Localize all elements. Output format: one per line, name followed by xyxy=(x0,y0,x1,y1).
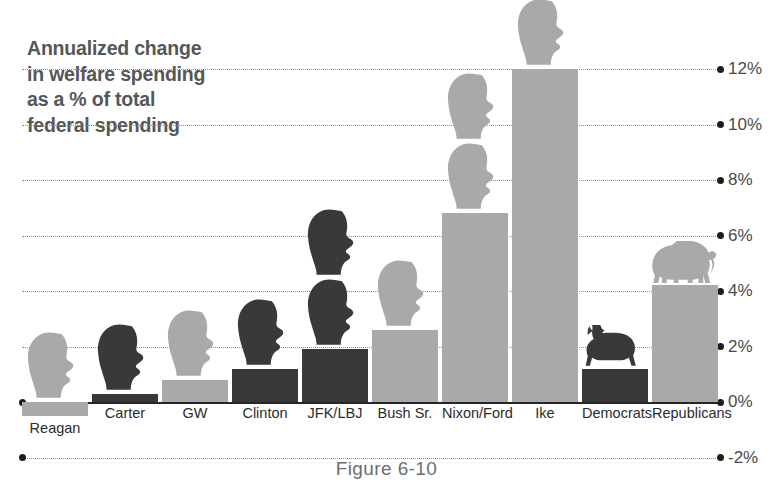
bar-column: Bush Sr. xyxy=(372,0,438,477)
bar-bush-sr-[interactable] xyxy=(372,330,438,402)
x-axis-label-bush-sr-: Bush Sr. xyxy=(372,405,438,421)
bar-nixon-ford[interactable] xyxy=(442,213,508,402)
x-axis-label-reagan: Reagan xyxy=(22,420,88,436)
bar-clinton[interactable] xyxy=(232,369,298,402)
bar-column: Democrats xyxy=(582,0,648,477)
bar-column: Reagan xyxy=(22,0,88,477)
x-axis-label-republicans: Republicans xyxy=(652,405,718,421)
figure-caption: Figure 6-10 xyxy=(0,458,773,480)
bar-jfk-lbj[interactable] xyxy=(302,349,368,402)
bar-gw[interactable] xyxy=(162,380,228,402)
x-axis-label-democrats: Democrats xyxy=(582,405,648,421)
bar-column: JFK/LBJ xyxy=(302,0,368,477)
head-silhouette-icon xyxy=(26,332,84,400)
bar-reagan[interactable] xyxy=(22,402,88,416)
x-axis-label-nixon-ford: Nixon/Ford xyxy=(442,405,508,421)
x-axis-label-jfk-lbj: JFK/LBJ xyxy=(302,405,368,421)
bar-ike[interactable] xyxy=(512,69,578,402)
bar-column: Nixon/Ford xyxy=(442,0,508,477)
bar-column: GW xyxy=(162,0,228,477)
head-silhouette-icon xyxy=(516,0,574,67)
x-axis-label-gw: GW xyxy=(162,405,228,421)
head-silhouette-icon xyxy=(306,209,364,277)
bar-column: Carter xyxy=(92,0,158,477)
x-axis-label-carter: Carter xyxy=(92,405,158,421)
head-silhouette-icon xyxy=(166,310,224,378)
bar-column: Clinton xyxy=(232,0,298,477)
head-silhouette-icon xyxy=(446,73,504,141)
head-silhouette-icon xyxy=(446,143,504,211)
bar-democrats[interactable] xyxy=(582,369,648,402)
bar-carter[interactable] xyxy=(92,394,158,402)
head-silhouette-icon xyxy=(96,324,154,392)
donkey-icon xyxy=(583,325,647,368)
bar-column: Ike xyxy=(512,0,578,477)
elephant-icon xyxy=(650,241,720,284)
head-silhouette-icon xyxy=(376,260,434,328)
head-silhouette-icon xyxy=(306,279,364,347)
bar-column: Republicans xyxy=(652,0,718,477)
bar-republicans[interactable] xyxy=(652,285,718,402)
x-axis-label-clinton: Clinton xyxy=(232,405,298,421)
head-silhouette-icon xyxy=(236,299,294,367)
x-axis-label-ike: Ike xyxy=(512,405,578,421)
